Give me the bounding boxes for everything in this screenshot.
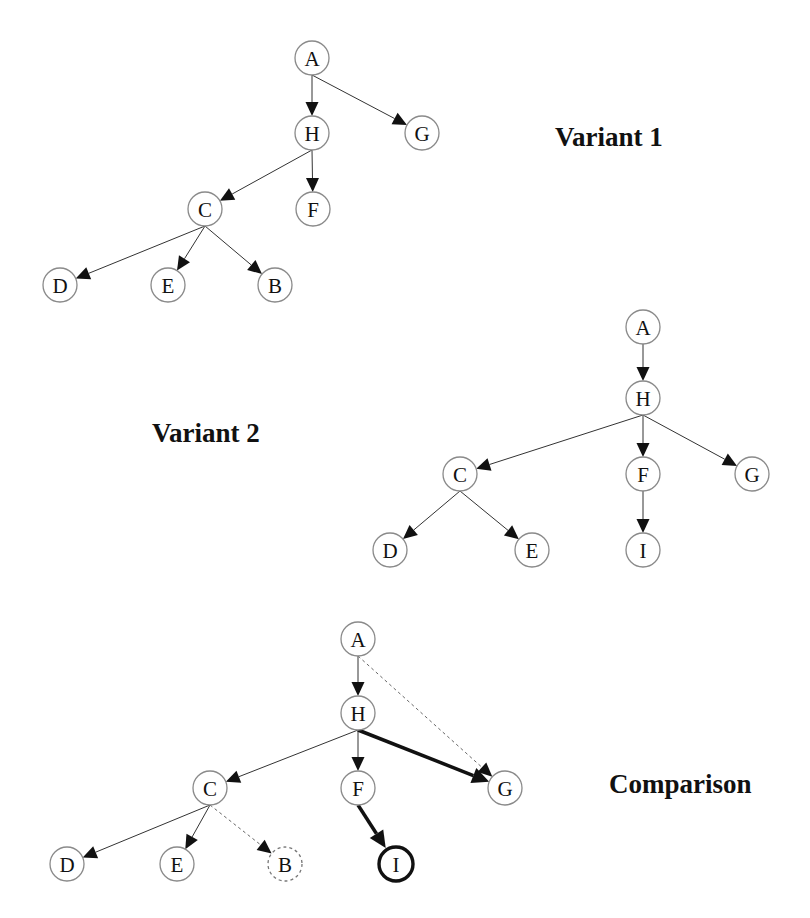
arrowhead-icon [392, 113, 407, 125]
node-E: E [515, 533, 549, 567]
node-label: H [635, 387, 650, 411]
node-label: E [162, 274, 175, 298]
arrowhead-icon [403, 525, 418, 539]
node-label: H [350, 702, 365, 726]
node-label: E [171, 853, 184, 877]
node-B: B [268, 847, 302, 881]
comparison-label: Comparison [609, 769, 752, 800]
node-label: C [198, 198, 212, 222]
node-label: I [640, 539, 647, 563]
node-label: C [203, 777, 217, 801]
node-A: A [341, 622, 375, 656]
node-I: I [626, 533, 660, 567]
edge-H-C [226, 730, 358, 783]
node-label: F [307, 198, 319, 222]
node-label: F [352, 777, 364, 801]
arrowhead-icon [476, 458, 491, 470]
arrowhead-icon [306, 102, 319, 116]
node-label: G [744, 463, 759, 487]
node-B: B [258, 268, 292, 302]
edge-A-H [637, 344, 650, 381]
arrowhead-icon [220, 188, 235, 200]
arrowhead-icon [637, 519, 650, 533]
edge-F-I [358, 805, 386, 848]
node-label: E [526, 539, 539, 563]
edge-H-F [637, 415, 650, 457]
edge-C-D [83, 805, 210, 858]
edge-A-G [312, 75, 407, 125]
variant-1-label: Variant 1 [555, 122, 663, 153]
node-label: C [453, 463, 467, 487]
node-label: B [278, 853, 292, 877]
node-A: A [295, 41, 329, 75]
node-D: D [50, 847, 84, 881]
node-E: E [151, 268, 185, 302]
edge-C-B [205, 226, 262, 274]
node-label: H [304, 122, 319, 146]
node-I: I [379, 847, 413, 881]
arrowhead-icon [257, 840, 272, 854]
edge-A-H [352, 656, 365, 696]
arrowhead-icon [306, 178, 319, 192]
arrowhead-icon [352, 757, 365, 771]
node-D: D [373, 533, 407, 567]
arrowhead-icon [177, 255, 190, 270]
arrowhead-icon [370, 829, 386, 848]
node-C: C [443, 457, 477, 491]
node-F: F [341, 771, 375, 805]
arrowhead-icon [247, 260, 262, 274]
node-G: G [405, 116, 439, 150]
node-C: C [193, 771, 227, 805]
edge-C-B [210, 805, 272, 853]
node-label: D [59, 853, 74, 877]
nodes-layer: AHGCFDEBAHCFGDEIAHCFGDEBI [43, 41, 769, 881]
arrowhead-icon [722, 454, 737, 466]
node-label: G [414, 122, 429, 146]
panel-variant2-edges [403, 344, 737, 539]
node-label: G [497, 777, 512, 801]
edge-F-I [637, 491, 650, 533]
node-H: H [341, 696, 375, 730]
panel-comparison-edges [83, 656, 493, 858]
node-E: E [160, 847, 194, 881]
variant-2-label: Variant 2 [152, 418, 260, 449]
arrowhead-icon [637, 443, 650, 457]
node-label: I [393, 853, 400, 877]
edge-C-D [403, 491, 460, 539]
edge-A-H [306, 75, 319, 116]
arrowhead-icon [185, 834, 198, 849]
edge-C-E [460, 491, 519, 539]
edge-H-C [476, 415, 643, 471]
arrowhead-icon [504, 525, 519, 539]
node-F: F [296, 192, 330, 226]
node-F: F [626, 457, 660, 491]
edge-C-D [76, 226, 205, 279]
node-label: F [637, 463, 649, 487]
node-label: D [382, 539, 397, 563]
node-G: G [735, 457, 769, 491]
edge-A-G [358, 656, 492, 777]
node-G: G [488, 771, 522, 805]
node-label: A [635, 316, 651, 340]
node-label: A [304, 47, 320, 71]
node-label: D [52, 274, 67, 298]
node-C: C [188, 192, 222, 226]
edge-H-F [306, 150, 319, 192]
panel-variant1-edges [76, 75, 407, 279]
edge-H-C [220, 150, 312, 201]
node-label: A [350, 628, 366, 652]
edge-C-E [185, 805, 210, 849]
node-D: D [43, 268, 77, 302]
panel-variant1: AHGCFDEB [43, 41, 439, 302]
edge-H-F [352, 730, 365, 771]
node-H: H [295, 116, 329, 150]
node-A: A [626, 310, 660, 344]
edge-H-G [643, 415, 737, 466]
node-H: H [626, 381, 660, 415]
arrowhead-icon [637, 367, 650, 381]
edge-C-E [177, 226, 205, 271]
node-label: B [268, 274, 282, 298]
arrowhead-icon [352, 682, 365, 696]
